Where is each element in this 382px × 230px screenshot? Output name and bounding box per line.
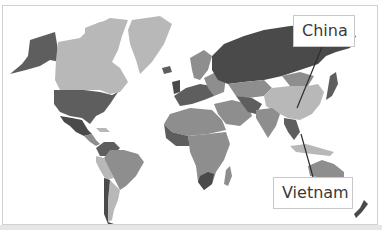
region-central-america <box>84 134 100 146</box>
region-alaska <box>10 32 60 74</box>
region-iceland <box>162 66 172 74</box>
china-label: China <box>293 15 355 47</box>
region-greenland <box>128 16 172 74</box>
region-japan <box>326 72 338 100</box>
region-caribbean <box>96 128 110 132</box>
vietnam-label: Vietnam <box>273 177 353 209</box>
region-madagascar <box>224 166 232 186</box>
region-uk <box>172 80 180 94</box>
region-india <box>256 108 280 138</box>
vietnam-leader-line <box>301 134 313 177</box>
region-southeast-asia <box>284 118 300 140</box>
region-scandinavia <box>190 50 212 80</box>
region-north-africa <box>164 108 226 136</box>
region-new-zealand <box>354 200 368 218</box>
region-indonesia <box>290 144 334 156</box>
